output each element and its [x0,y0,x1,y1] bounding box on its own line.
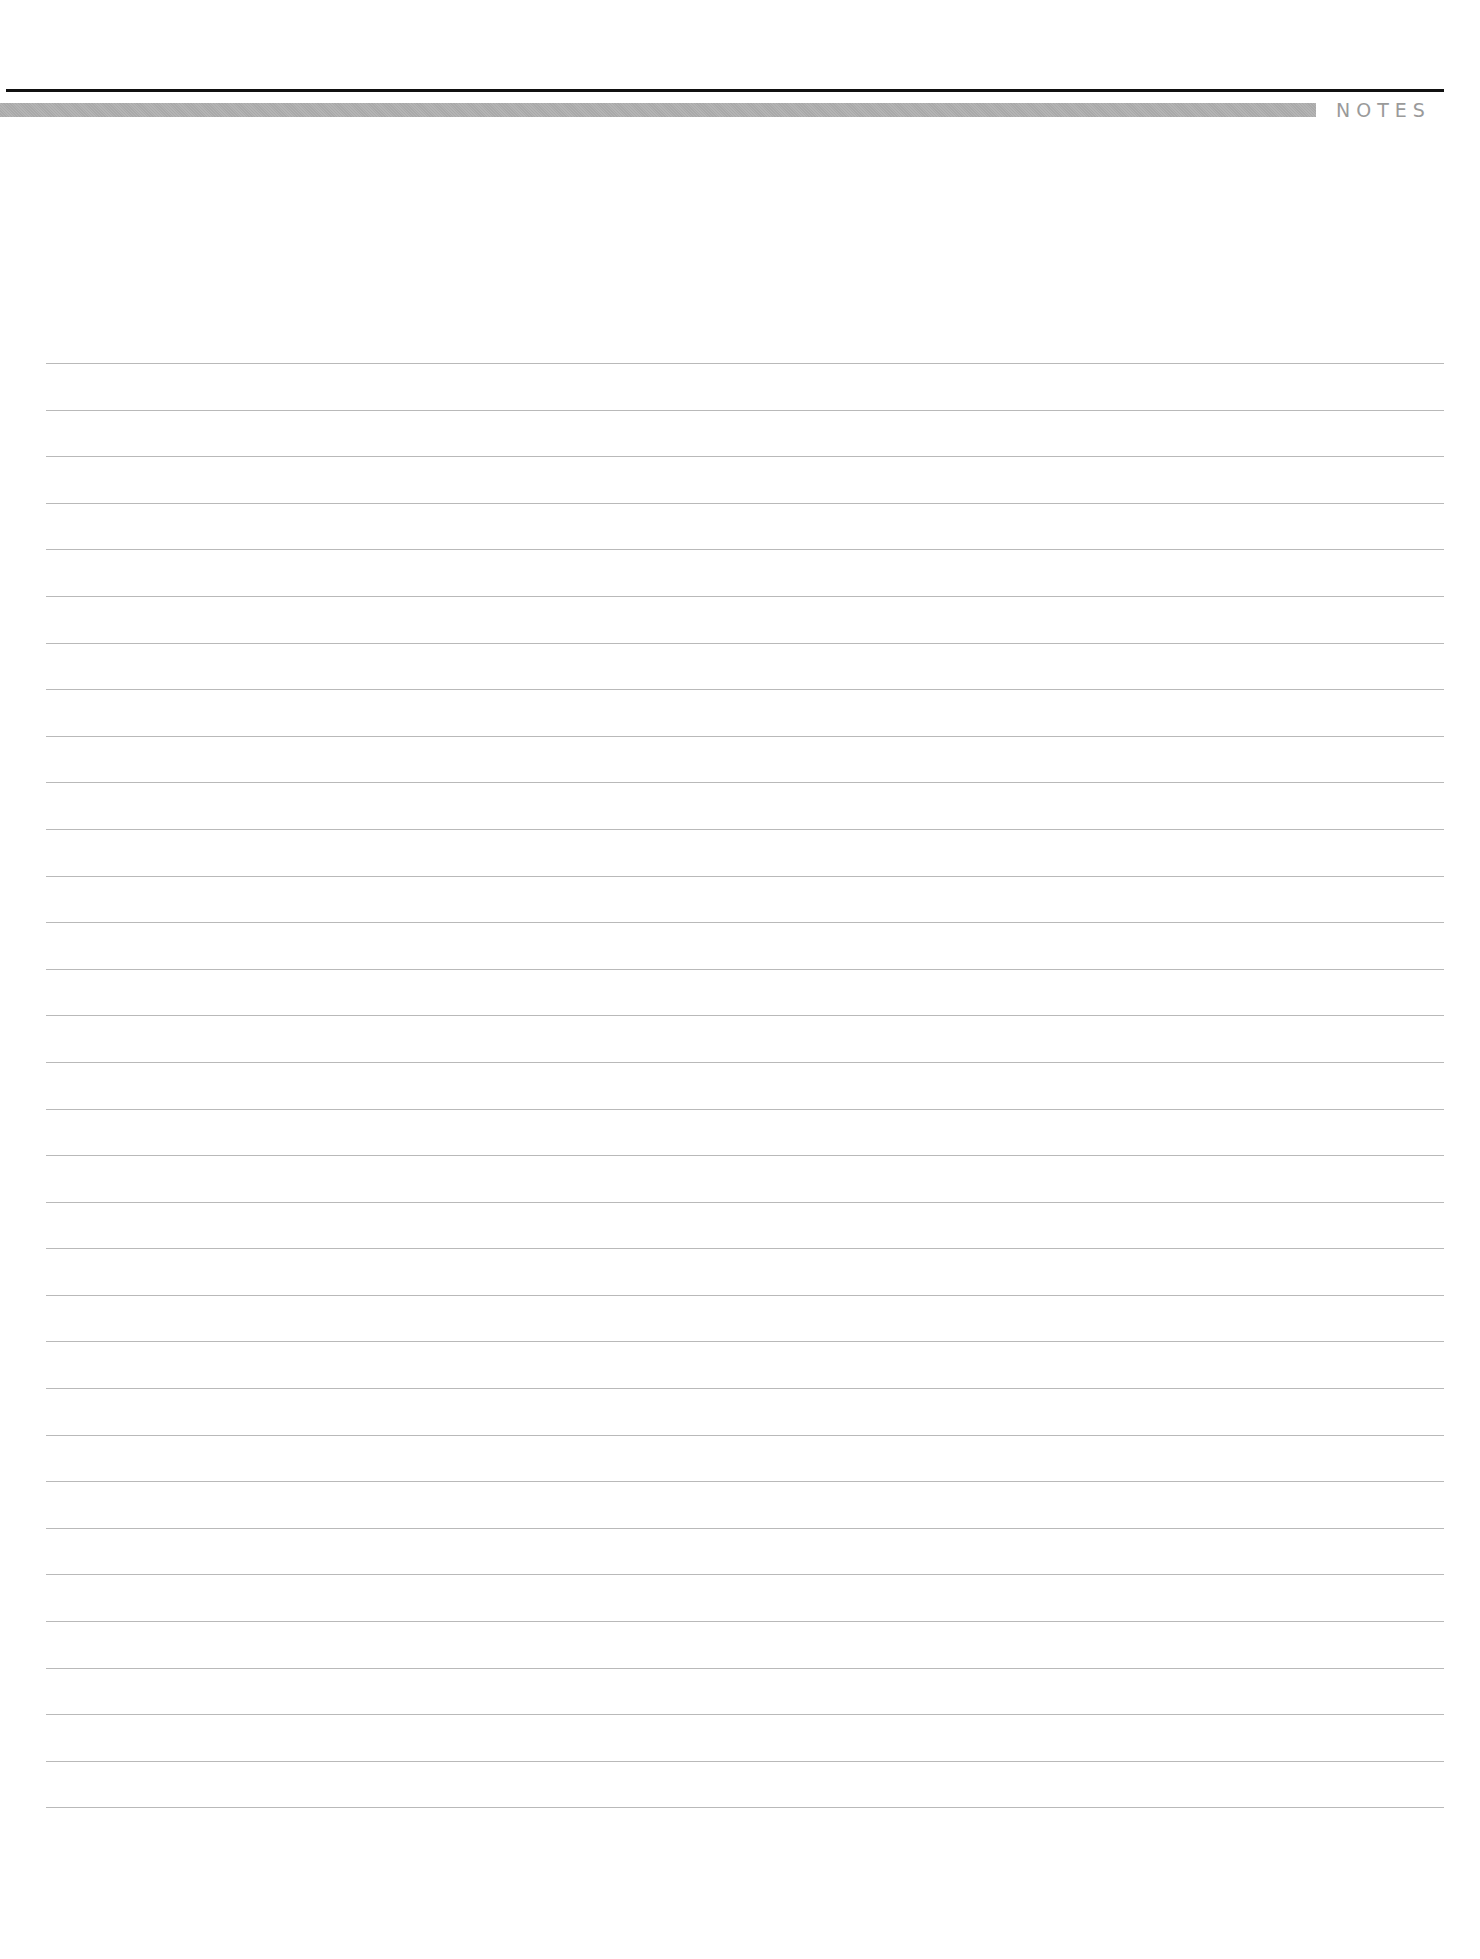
note-line[interactable] [46,1248,1444,1249]
note-line[interactable] [46,1341,1444,1342]
note-line[interactable] [46,1528,1444,1529]
note-line[interactable] [46,1109,1444,1110]
note-line[interactable] [46,456,1444,457]
note-line[interactable] [46,1761,1444,1762]
note-line[interactable] [46,689,1444,690]
note-line[interactable] [46,1621,1444,1622]
note-line[interactable] [46,1062,1444,1063]
note-line[interactable] [46,1668,1444,1669]
note-line[interactable] [46,363,1444,364]
note-line[interactable] [46,1714,1444,1715]
note-line[interactable] [46,922,1444,923]
note-line[interactable] [46,1388,1444,1389]
note-line[interactable] [46,1295,1444,1296]
note-line[interactable] [46,549,1444,550]
note-line[interactable] [46,1435,1444,1436]
note-line[interactable] [46,876,1444,877]
note-line[interactable] [46,1015,1444,1016]
ruled-lines [46,363,1444,1854]
note-line[interactable] [46,1155,1444,1156]
note-line[interactable] [46,969,1444,970]
header-bar [0,103,1316,117]
note-line[interactable] [46,782,1444,783]
note-line[interactable] [46,1202,1444,1203]
note-line[interactable] [46,1481,1444,1482]
note-line[interactable] [46,1574,1444,1575]
note-line[interactable] [46,1807,1444,1808]
note-line[interactable] [46,643,1444,644]
top-rule [6,89,1444,92]
note-line[interactable] [46,829,1444,830]
note-line[interactable] [46,410,1444,411]
note-line[interactable] [46,503,1444,504]
note-line[interactable] [46,736,1444,737]
page-title: NOTES [1336,100,1431,120]
note-line[interactable] [46,596,1444,597]
